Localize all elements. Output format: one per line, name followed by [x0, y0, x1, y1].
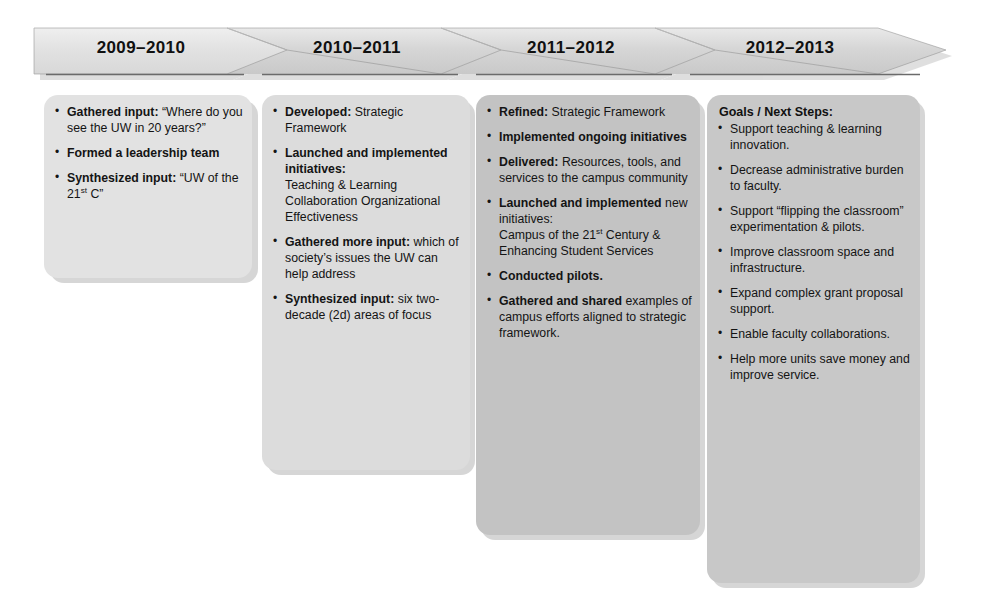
bullet-lead: Gathered more input:: [285, 235, 410, 249]
phase-card-1: Gathered input: “Where do you see the UW…: [44, 95, 252, 278]
bullet-lead: Synthesized input:: [285, 292, 394, 306]
phase-card-4: Goals / Next Steps: Support teaching & l…: [707, 95, 920, 583]
phase-year-label-1: 2009–2010: [46, 38, 236, 58]
bullet-lead: Launched and implemented initiatives:: [285, 146, 448, 176]
phase-year-label-3: 2011–2012: [476, 38, 666, 58]
bullet-sub: Campus of the 21: [499, 228, 596, 242]
bullet-lead: Synthesized input:: [67, 171, 176, 185]
list-item: Decrease administrative burden to facult…: [717, 163, 912, 195]
bullet-lead: Conducted pilots.: [499, 269, 603, 283]
list-item: Enable faculty collaborations.: [717, 327, 912, 343]
phase-year-label-2: 2010–2011: [262, 38, 452, 58]
bullet-tail: Decrease administrative burden to facult…: [730, 163, 904, 193]
timeline-arrow-band: 2009–2010 2010–2011 2011–2012 2012–2013: [0, 0, 988, 92]
bullet-tail: Improve classroom space and infrastructu…: [730, 245, 894, 275]
timeline-diagram: 2009–2010 2010–2011 2011–2012 2012–2013 …: [0, 0, 988, 615]
bullet-lead: Gathered input:: [67, 105, 159, 119]
list-item: Developed: Strategic Framework: [272, 105, 462, 137]
bullet-lead: Implemented ongoing initiatives: [499, 130, 687, 144]
bullet-tail: Support “flipping the classroom” experim…: [730, 204, 904, 234]
list-item: Help more units save money and improve s…: [717, 352, 912, 384]
list-item: Refined: Strategic Framework: [486, 105, 692, 121]
list-item: Delivered: Resources, tools, and service…: [486, 155, 692, 187]
bullet-lead: Formed a leadership team: [67, 146, 219, 160]
phase-3-bullet-list: Refined: Strategic Framework Implemented…: [486, 105, 692, 342]
list-item: Gathered and shared examples of campus e…: [486, 294, 692, 342]
list-item: Improve classroom space and infrastructu…: [717, 245, 912, 277]
phase-1-bullet-list: Gathered input: “Where do you see the UW…: [54, 105, 244, 203]
phase-4-bullet-list: Support teaching & learning innovation. …: [717, 122, 912, 384]
bullet-tail-2: C”: [87, 187, 103, 201]
bullet-lead: Developed:: [285, 105, 351, 119]
phase-2-bullet-list: Developed: Strategic Framework Launched …: [272, 105, 462, 324]
bullet-tail: Strategic Framework: [548, 105, 665, 119]
phase-card-3: Refined: Strategic Framework Implemented…: [476, 95, 700, 535]
list-item: Support teaching & learning innovation.: [717, 122, 912, 154]
bullet-tail: Help more units save money and improve s…: [730, 352, 910, 382]
bullet-lead: Launched and implemented: [499, 196, 662, 210]
list-item: Launched and implemented new initiatives…: [486, 196, 692, 260]
bullet-tail: Support teaching & learning innovation.: [730, 122, 882, 152]
phase-card-2: Developed: Strategic Framework Launched …: [262, 95, 470, 470]
list-item: Implemented ongoing initiatives: [486, 130, 692, 146]
list-item: Synthesized input: “UW of the 21st C”: [54, 171, 244, 203]
bullet-lead: Delivered:: [499, 155, 558, 169]
list-item: Support “flipping the classroom” experim…: [717, 204, 912, 236]
bullet-lead: Refined:: [499, 105, 548, 119]
list-item: Gathered input: “Where do you see the UW…: [54, 105, 244, 137]
list-item: Conducted pilots.: [486, 269, 692, 285]
list-item: Gathered more input: which of society’s …: [272, 235, 462, 283]
bullet-lead: Gathered and shared: [499, 294, 622, 308]
list-item: Launched and implemented initiatives:Tea…: [272, 146, 462, 226]
bullet-sub-wrap: Campus of the 21st Century & Enhancing S…: [499, 228, 692, 260]
phase-4-heading: Goals / Next Steps:: [719, 105, 912, 121]
list-item: Formed a leadership team: [54, 146, 244, 162]
bullet-tail: Enable faculty collaborations.: [730, 327, 890, 341]
bullet-sub: Teaching & Learning Collaboration Organi…: [285, 178, 462, 226]
list-item: Expand complex grant proposal support.: [717, 286, 912, 318]
phase-year-label-4: 2012–2013: [690, 38, 890, 58]
list-item: Synthesized input: six two-decade (2d) a…: [272, 292, 462, 324]
bullet-tail: Expand complex grant proposal support.: [730, 286, 903, 316]
